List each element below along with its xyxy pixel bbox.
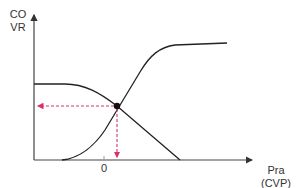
y-axis-label-co: CO bbox=[6, 8, 30, 21]
x-axis-label-pra: Pra bbox=[256, 164, 296, 177]
x-axis-label: Pra (CVP) bbox=[256, 164, 296, 188]
y-axis-label-vr: VR bbox=[6, 21, 30, 34]
equilibrium-point bbox=[114, 103, 120, 109]
cardiac-output-curve bbox=[62, 43, 227, 160]
x-axis-label-cvp: (CVP) bbox=[256, 177, 296, 188]
venous-return-curve bbox=[34, 84, 180, 160]
y-axis-label: CO VR bbox=[6, 8, 30, 34]
chart-canvas bbox=[0, 0, 297, 188]
zero-tick-label: 0 bbox=[99, 162, 109, 175]
